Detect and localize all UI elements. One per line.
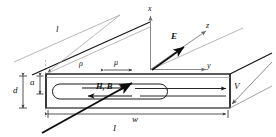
label-resistivity-rho: ρ — [79, 60, 83, 68]
label-axis-y: y — [207, 62, 211, 70]
label-vector-V: V — [234, 82, 240, 91]
dimension-a — [37, 76, 44, 94]
label-vector-HB: H, B — [96, 82, 113, 91]
dimension-d — [19, 76, 27, 108]
label-inner-thickness-a: a — [30, 78, 35, 87]
label-width-w: w — [132, 115, 138, 124]
label-vector-E: E — [171, 32, 177, 41]
label-axis-z: z — [206, 22, 209, 30]
label-axis-x: x — [148, 5, 152, 13]
label-thickness-d: d — [13, 86, 18, 95]
label-vector-I: I — [113, 124, 116, 133]
label-mobility-mu: μ — [114, 59, 118, 67]
label-length-l: l — [56, 25, 59, 34]
figure-root: l x y z E H, B I V ρ μ d a w — [0, 0, 276, 137]
